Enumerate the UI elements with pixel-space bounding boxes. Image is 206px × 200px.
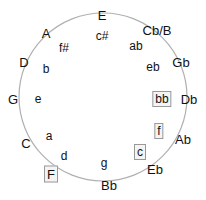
major-key-label: Bb <box>101 179 117 192</box>
major-key-label: D <box>19 56 28 69</box>
major-key-label: G <box>8 93 18 106</box>
minor-key-label: c <box>134 144 146 160</box>
minor-key-label: d <box>61 150 68 162</box>
major-key-label: Db <box>181 93 198 106</box>
major-key-label: A <box>42 27 51 40</box>
major-key-label: F <box>44 166 58 183</box>
minor-key-label: a <box>46 130 53 142</box>
minor-key-label: bb <box>152 91 171 107</box>
major-key-label: Gb <box>172 56 189 69</box>
minor-key-label: e <box>35 93 42 105</box>
minor-key-label: c# <box>96 30 109 42</box>
minor-key-label: ab <box>129 40 142 52</box>
major-key-label: Cb/B <box>143 24 172 37</box>
circle-of-fifths-diagram: ECb/BGbDbAbEbBbFCGDAc#abebbbfcgdaebf# <box>0 0 206 200</box>
minor-key-label: eb <box>146 61 159 73</box>
minor-key-label: f# <box>59 42 69 54</box>
minor-key-label: b <box>43 63 50 75</box>
major-key-label: Eb <box>147 163 163 176</box>
major-key-label: Ab <box>175 133 191 146</box>
minor-key-label: f <box>154 123 163 139</box>
major-key-label: E <box>98 9 107 22</box>
minor-key-label: g <box>101 157 108 169</box>
major-key-label: C <box>21 137 30 150</box>
